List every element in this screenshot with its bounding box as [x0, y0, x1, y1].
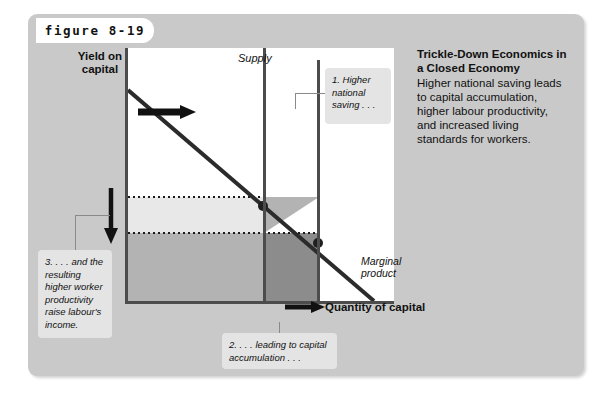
callout-capital-accumulation: 2. . . . leading to capital accumulation… [222, 333, 337, 369]
region-added-capital-dark [264, 233, 319, 301]
figure-caption: Trickle-Down Economics in a Closed Econo… [417, 48, 567, 146]
guide-line-initial-yield [128, 196, 265, 198]
region-capital-income-medium [128, 233, 264, 301]
callout-labour-income: 3. . . . and the resulting higher worker… [38, 250, 112, 338]
y-axis-label: Yield on capital [70, 50, 130, 76]
shift-right-arrow-icon [138, 105, 196, 119]
callout-higher-national-saving: 1. Higher national saving . . . [325, 68, 391, 124]
region-surplus-triangle-shape [264, 197, 319, 233]
figure-caption-title: Trickle-Down Economics in a Closed Econo… [417, 48, 567, 75]
yield-down-arrow-icon [104, 188, 118, 244]
supply-curve-label: Supply [238, 52, 272, 64]
region-surplus-triangle [264, 197, 319, 233]
region-labour-income-light [128, 197, 264, 233]
callout-3-connector-horizontal [75, 215, 110, 216]
x-axis-label: Quantity of capital [325, 301, 425, 313]
callout-1-connector-horizontal [295, 93, 325, 94]
figure-number-tab: figure 8-19 [36, 18, 154, 43]
x-axis-direction-arrow-icon [285, 300, 325, 314]
supply-line-initial [263, 48, 266, 301]
y-axis [125, 48, 128, 301]
guide-line-new-yield [128, 232, 320, 234]
marginal-product-curve-label: Marginalproduct [361, 255, 401, 279]
figure-number-label: figure 8-19 [45, 23, 145, 38]
supply-line-shifted [317, 60, 320, 301]
figure-caption-body: Higher national saving leads to capital … [417, 76, 567, 146]
callout-3-connector-vertical [75, 215, 76, 251]
callout-1-connector-vertical [295, 93, 296, 109]
